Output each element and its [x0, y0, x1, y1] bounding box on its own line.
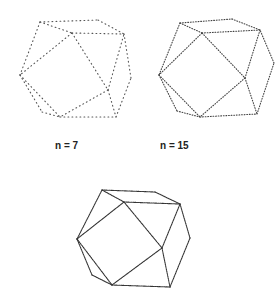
polyhedron-edge — [257, 63, 274, 114]
polyhedron-edge — [260, 30, 274, 63]
polyhedron-edge — [72, 33, 124, 34]
polyhedron-edge — [170, 238, 190, 287]
polyhedron-edge — [200, 114, 257, 117]
polyhedron-wireframe-n7 — [0, 0, 140, 135]
polyhedron-edge — [20, 22, 40, 75]
panel-label-n7: n = 7 — [55, 140, 78, 151]
polyhedron-edge — [92, 275, 112, 285]
polyhedron-edge — [162, 204, 180, 248]
polyhedron-edge — [159, 75, 200, 117]
polyhedron-edge — [112, 248, 162, 285]
polyhedron-edge — [77, 239, 112, 285]
polyhedron-edge — [108, 34, 124, 90]
polyhedron-panel-dense — [60, 160, 220, 304]
polyhedron-edge — [20, 75, 60, 117]
polyhedron-panel-n7 — [0, 0, 140, 135]
polyhedron-edge — [159, 23, 180, 75]
polyhedron-edge — [202, 30, 260, 33]
polyhedron-wireframe-n15 — [140, 0, 280, 135]
polyhedron-edge — [177, 111, 200, 117]
polyhedron-edge — [155, 192, 180, 204]
polyhedron-edge — [124, 202, 162, 248]
polyhedron-edge — [245, 78, 257, 114]
polyhedron-edge — [112, 285, 170, 287]
polyhedron-edge — [159, 33, 202, 75]
polyhedron-edge — [40, 22, 72, 33]
panel-label-n15: n = 15 — [160, 140, 189, 151]
polyhedron-edge — [20, 75, 42, 112]
polyhedron-edge — [102, 190, 124, 202]
polyhedron-edge — [202, 33, 245, 78]
polyhedron-edge — [72, 33, 108, 90]
polyhedron-edge — [60, 90, 108, 117]
polyhedron-edge — [98, 20, 124, 34]
polyhedron-edge — [77, 190, 102, 239]
polyhedron-edge — [200, 78, 245, 117]
polyhedron-edge — [40, 20, 98, 22]
polyhedron-edge — [116, 78, 131, 117]
polyhedron-edge — [108, 90, 116, 117]
polyhedron-edge — [180, 19, 232, 23]
polyhedron-panel-n15 — [140, 0, 280, 135]
polyhedron-edge — [180, 204, 190, 238]
polyhedron-edge — [102, 190, 155, 192]
polyhedron-edge — [124, 202, 180, 204]
polyhedron-edge — [162, 248, 170, 287]
polyhedron-wireframe-dense — [60, 160, 220, 304]
polyhedron-edge — [20, 33, 72, 75]
polyhedron-edge — [159, 75, 177, 111]
polyhedron-edge — [77, 239, 92, 275]
polyhedron-edge — [232, 19, 260, 30]
polyhedron-edge — [42, 112, 60, 117]
polyhedron-edge — [180, 23, 202, 33]
polyhedron-edge — [124, 34, 131, 78]
polyhedron-edge — [77, 202, 124, 239]
polyhedron-edge — [245, 30, 260, 78]
